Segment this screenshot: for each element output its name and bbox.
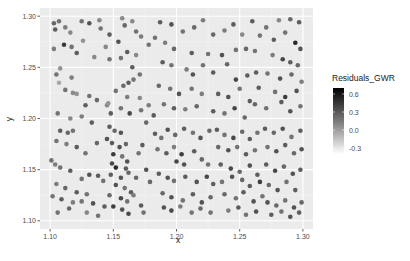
data-point xyxy=(130,19,135,24)
data-point xyxy=(83,151,88,156)
data-point xyxy=(279,100,284,105)
data-point xyxy=(107,57,112,62)
data-point xyxy=(96,213,101,218)
data-point xyxy=(255,173,260,178)
data-point xyxy=(216,145,221,150)
data-point xyxy=(253,102,258,107)
data-point xyxy=(234,196,239,201)
data-point xyxy=(241,190,246,195)
data-point xyxy=(126,80,131,85)
data-point xyxy=(264,25,269,30)
data-point xyxy=(229,166,234,171)
data-point xyxy=(146,103,151,108)
data-point xyxy=(226,208,231,213)
x-tick-label: 1.30 xyxy=(296,233,310,240)
data-point xyxy=(168,87,173,92)
data-point xyxy=(54,139,59,144)
data-point xyxy=(272,37,277,42)
y-tick-label: 1.30 xyxy=(22,13,36,20)
data-point xyxy=(189,210,194,215)
data-point xyxy=(288,17,293,22)
data-point xyxy=(284,180,289,185)
data-point xyxy=(237,169,242,174)
data-point xyxy=(201,63,206,68)
colorbar-label: 0.6 xyxy=(349,91,359,98)
data-point xyxy=(95,98,100,103)
data-point xyxy=(234,48,239,53)
data-point xyxy=(157,84,162,89)
x-tick-label: 1.10 xyxy=(43,233,57,240)
data-point xyxy=(191,192,196,197)
data-point xyxy=(107,32,112,37)
data-point xyxy=(191,131,196,136)
data-point xyxy=(298,129,303,134)
data-point xyxy=(66,131,71,136)
data-point xyxy=(87,173,92,178)
data-point xyxy=(248,163,253,168)
data-point xyxy=(110,141,115,146)
data-point xyxy=(139,108,144,113)
data-point xyxy=(71,200,76,205)
data-point xyxy=(242,115,247,120)
data-point xyxy=(164,151,169,156)
data-point xyxy=(230,175,235,180)
data-point xyxy=(169,63,174,68)
data-point xyxy=(299,147,304,152)
data-point xyxy=(172,145,177,150)
data-point xyxy=(107,124,112,129)
data-point xyxy=(172,106,177,111)
data-point xyxy=(299,79,304,84)
data-point xyxy=(248,99,253,104)
data-point xyxy=(220,180,225,185)
colorbar xyxy=(333,88,344,154)
data-point xyxy=(74,190,79,195)
data-point xyxy=(288,214,293,219)
data-point xyxy=(297,210,302,215)
data-point xyxy=(211,182,216,187)
data-point xyxy=(274,203,279,208)
data-point xyxy=(138,96,143,101)
data-point xyxy=(183,107,188,112)
data-point xyxy=(54,72,59,77)
data-point xyxy=(216,92,221,97)
data-point xyxy=(253,49,258,54)
data-point xyxy=(172,47,177,52)
x-tick-label: 1.25 xyxy=(233,233,247,240)
data-point xyxy=(87,21,92,26)
data-point xyxy=(172,179,177,184)
data-point xyxy=(258,180,263,185)
data-point xyxy=(125,95,130,100)
data-point xyxy=(116,40,121,45)
data-point xyxy=(114,165,119,170)
data-point xyxy=(220,53,225,58)
data-point xyxy=(182,162,187,167)
data-point xyxy=(119,196,124,201)
data-point xyxy=(97,18,102,23)
data-point xyxy=(79,114,84,119)
data-point xyxy=(53,162,58,167)
data-point xyxy=(280,126,285,131)
data-point xyxy=(183,175,188,180)
data-point xyxy=(134,53,139,58)
data-point xyxy=(198,136,203,141)
data-point xyxy=(244,152,249,157)
data-point xyxy=(68,168,73,173)
data-point xyxy=(292,205,297,210)
data-point xyxy=(107,193,112,198)
data-point xyxy=(194,104,199,109)
data-point xyxy=(251,199,256,204)
data-point xyxy=(162,102,167,107)
data-point xyxy=(267,183,272,188)
data-point xyxy=(292,151,297,156)
data-point xyxy=(280,57,285,62)
data-point xyxy=(105,137,110,142)
data-point xyxy=(207,129,212,134)
data-point xyxy=(263,126,268,131)
data-point xyxy=(103,45,108,50)
data-point xyxy=(253,148,258,153)
data-point xyxy=(148,180,153,185)
data-point xyxy=(59,197,64,202)
data-point xyxy=(291,172,296,177)
data-point xyxy=(226,95,231,100)
data-point xyxy=(63,25,68,30)
